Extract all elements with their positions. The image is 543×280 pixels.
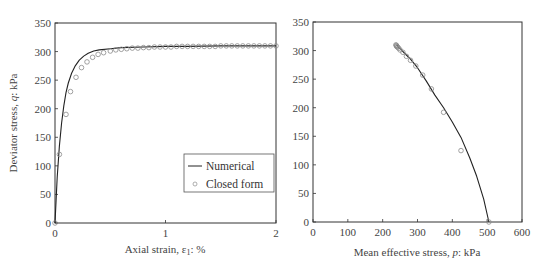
y-tick-label: 200 bbox=[35, 103, 52, 115]
x-tick-label: 0 bbox=[310, 226, 316, 238]
closed-form-marker bbox=[459, 148, 464, 153]
closed-form-marker bbox=[141, 45, 146, 50]
y-tick-label: 350 bbox=[35, 17, 52, 29]
right-plot-frame bbox=[313, 22, 522, 222]
right-x-axis-title: Mean effective stress, p: kPa bbox=[354, 246, 481, 258]
chart-figure: 050100150200250300350 012 Numerical Clos… bbox=[0, 0, 543, 280]
closed-form-marker bbox=[79, 65, 84, 70]
left-series bbox=[53, 44, 279, 226]
left-x-axis-title: Axial strain, ε1: % bbox=[125, 243, 206, 257]
x-tick-label: 500 bbox=[479, 226, 496, 238]
x-tick-label: 100 bbox=[340, 226, 357, 238]
y-tick-label: 150 bbox=[293, 130, 310, 142]
left-plot: 050100150200250300350 012 Numerical Clos… bbox=[7, 17, 279, 257]
x-tick-label: 400 bbox=[444, 226, 461, 238]
y-tick-label: 50 bbox=[40, 188, 52, 200]
right-y-ticks: 050100150200250300350 bbox=[293, 16, 317, 228]
closed-form-marker bbox=[101, 50, 106, 55]
y-tick-label: 350 bbox=[293, 16, 310, 28]
closed-form-marker bbox=[163, 45, 168, 50]
closed-form-marker bbox=[441, 110, 446, 115]
y-tick-label: 300 bbox=[35, 46, 52, 58]
closed-form-marker bbox=[147, 45, 152, 50]
closed-form-marker bbox=[90, 55, 95, 60]
closed-form-marker bbox=[68, 89, 73, 94]
closed-form-marker bbox=[64, 112, 69, 117]
y-tick-label: 200 bbox=[293, 102, 310, 114]
right-series bbox=[394, 43, 492, 225]
y-tick-label: 300 bbox=[293, 45, 310, 57]
x-tick-label: 600 bbox=[514, 226, 531, 238]
closed-form-marker bbox=[96, 52, 101, 57]
y-tick-label: 100 bbox=[35, 160, 52, 172]
closed-form-marker bbox=[130, 46, 135, 51]
closed-form-marker bbox=[169, 45, 174, 50]
y-tick-label: 50 bbox=[298, 187, 310, 199]
x-tick-label: 0 bbox=[52, 227, 58, 239]
y-tick-label: 150 bbox=[35, 131, 52, 143]
numerical-line bbox=[397, 45, 489, 222]
closed-form-marker bbox=[74, 75, 79, 80]
closed-form-marker bbox=[108, 49, 113, 54]
y-tick-label: 250 bbox=[293, 73, 310, 85]
y-tick-label: 100 bbox=[293, 159, 310, 171]
legend-closed-form: Closed form bbox=[206, 178, 263, 190]
right-plot: 050100150200250300350 010020030040050060… bbox=[293, 16, 531, 258]
left-y-axis-title: Deviator stress, q: kPa bbox=[7, 73, 19, 172]
closed-form-marker bbox=[85, 60, 90, 65]
y-tick-label: 0 bbox=[304, 216, 310, 228]
left-y-ticks: 050100150200250300350 bbox=[35, 17, 59, 229]
x-tick-label: 300 bbox=[409, 226, 426, 238]
closed-form-marker bbox=[136, 46, 141, 51]
x-tick-label: 200 bbox=[374, 226, 391, 238]
legend: Numerical Closed form bbox=[184, 154, 274, 192]
legend-numerical: Numerical bbox=[206, 160, 255, 172]
y-tick-label: 0 bbox=[46, 217, 52, 229]
x-tick-label: 2 bbox=[273, 227, 279, 239]
y-tick-label: 250 bbox=[35, 74, 52, 86]
x-tick-label: 1 bbox=[163, 227, 169, 239]
numerical-line bbox=[55, 46, 276, 223]
